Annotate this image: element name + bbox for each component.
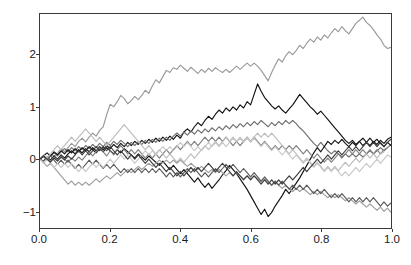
x-tick-label: 0.8	[313, 233, 329, 245]
x-tick-label: 0.6	[243, 233, 259, 245]
y-tick-mark	[36, 54, 39, 55]
series-line	[40, 139, 391, 184]
y-tick-label: −1	[23, 206, 36, 218]
y-tick-mark	[36, 212, 39, 213]
x-tick-label: 0.2	[102, 233, 118, 245]
x-tick-label: 1.0	[384, 233, 400, 245]
y-tick-mark	[36, 107, 39, 108]
x-tick-label: 0.0	[31, 233, 47, 245]
x-tick-mark	[110, 229, 111, 232]
figure: 0.00.20.40.60.81.0−1012	[0, 0, 411, 265]
x-tick-mark	[392, 229, 393, 232]
y-tick-mark	[36, 159, 39, 160]
x-tick-mark	[39, 229, 40, 232]
x-tick-mark	[180, 229, 181, 232]
x-tick-label: 0.4	[172, 233, 188, 245]
series-line	[40, 159, 391, 212]
plot-area	[39, 13, 392, 229]
x-tick-mark	[321, 229, 322, 232]
trajectories-svg	[40, 14, 391, 228]
x-tick-mark	[251, 229, 252, 232]
